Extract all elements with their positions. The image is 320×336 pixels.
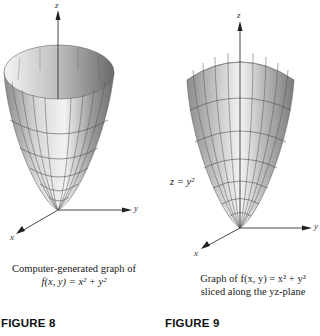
figure-9: z y x z = y² Graph of f(x, y) = x² + y² … [160, 0, 320, 336]
x-axis-label: x [194, 248, 198, 258]
figure-title: FIGURE 8 [1, 317, 56, 329]
x-axis-label: x [10, 232, 14, 242]
curve-annotation: z = y² [170, 176, 194, 187]
figure-title: FIGURE 9 [165, 317, 220, 329]
caption-line-2: f(x, y) = x² + y² [0, 275, 148, 288]
caption-line-1: Graph of f(x, y) = x² + y² [186, 272, 320, 285]
z-axis-label: z [55, 0, 59, 10]
z-axis-label: z [237, 10, 241, 20]
sliced-paraboloid-graph [160, 0, 320, 250]
caption-line-1: Computer-generated graph of [0, 262, 148, 275]
figure-caption: Computer-generated graph of f(x, y) = x²… [0, 262, 148, 288]
y-axis-label: y [134, 203, 138, 213]
figure-8: z y x Computer-generated graph of f(x, y… [0, 0, 160, 336]
caption-line-2: sliced along the yz-plane [186, 285, 320, 298]
figure-caption: Graph of f(x, y) = x² + y² sliced along … [186, 272, 320, 298]
y-axis-label: y [314, 221, 318, 231]
